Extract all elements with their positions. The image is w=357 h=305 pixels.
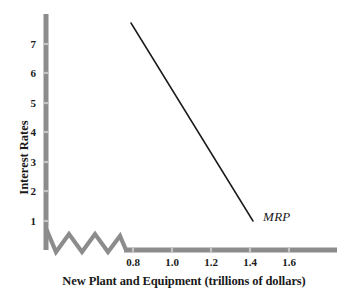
x-tick-label: 1.0 (156, 257, 188, 268)
x-tick-label: 1.4 (234, 257, 266, 268)
x-tick-label: 1.2 (195, 257, 227, 268)
y-tick-label: 6 (20, 68, 36, 79)
x-axis-break-zigzag (46, 233, 126, 252)
x-tick-label: 0.8 (117, 257, 149, 268)
chart-container: 7 6 5 4 3 2 1 0.8 1.0 1.2 1.4 1.6 New Pl… (0, 0, 357, 305)
series-label-mrp: MRP (263, 209, 291, 225)
x-tick-label: 1.6 (273, 257, 305, 268)
y-tick-label: 7 (20, 39, 36, 50)
y-tick-label: 1 (20, 216, 36, 227)
series-line-mrp (131, 23, 253, 221)
y-axis-title: Interest Rates (17, 98, 32, 218)
x-axis-title: New Plant and Equipment (trillions of do… (36, 274, 332, 289)
